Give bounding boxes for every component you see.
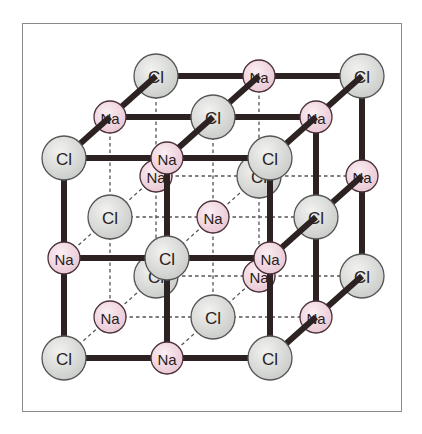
sodium-label: Na	[203, 210, 223, 227]
sodium-atom: Na	[151, 342, 183, 374]
sodium-atom: Na	[48, 242, 80, 274]
chlorine-label: Cl	[262, 150, 278, 169]
chlorine-label: Cl	[262, 350, 278, 369]
sodium-label: Na	[157, 151, 177, 168]
sodium-label: Na	[54, 251, 74, 268]
sodium-label: Na	[260, 251, 280, 268]
chlorine-atom: Cl	[42, 136, 86, 180]
sodium-label: Na	[100, 310, 120, 327]
chlorine-atom: Cl	[191, 295, 235, 339]
chlorine-label: Cl	[56, 150, 72, 169]
sodium-label: Na	[157, 351, 177, 368]
sodium-atom: Na	[254, 242, 286, 274]
chlorine-atom: Cl	[42, 336, 86, 380]
sodium-atom: Na	[151, 142, 183, 174]
chlorine-atom: Cl	[248, 336, 292, 380]
chlorine-atom: Cl	[145, 236, 189, 280]
chlorine-label: Cl	[159, 250, 175, 269]
chlorine-label: Cl	[205, 309, 221, 328]
sodium-atom: Na	[94, 301, 126, 333]
chlorine-atom: Cl	[88, 195, 132, 239]
nacl-lattice-diagram: ClNaClNaClNaClNaClNaClNaClNaClNaClNaClNa…	[0, 0, 422, 434]
chlorine-atom: Cl	[248, 136, 292, 180]
chlorine-label: Cl	[56, 350, 72, 369]
chlorine-label: Cl	[102, 209, 118, 228]
sodium-atom: Na	[197, 201, 229, 233]
